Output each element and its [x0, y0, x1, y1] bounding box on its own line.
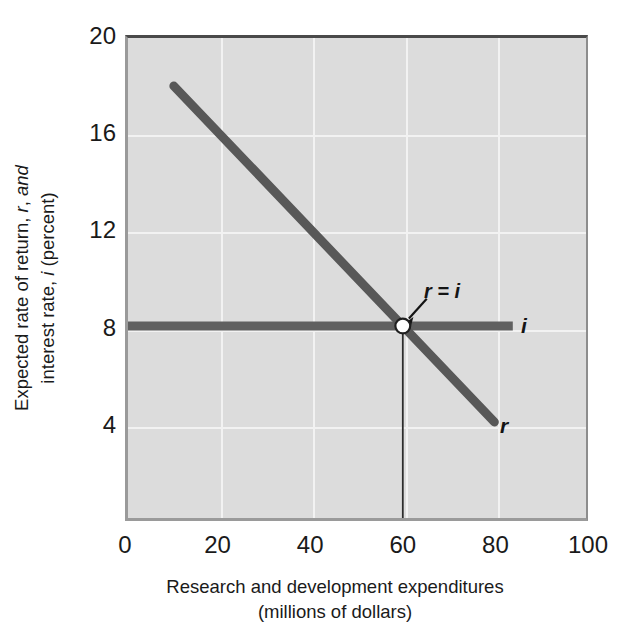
x-axis-ticks: 0 20 40 60 80 100	[125, 533, 588, 563]
x-tick-60: 60	[373, 533, 433, 557]
x-tick-40: 40	[280, 533, 340, 557]
y-axis-title-line1: Expected rate of return, r, and	[9, 38, 35, 538]
y-tick-4: 4	[72, 413, 116, 437]
y-axis-title-seg-percent: (percent)	[37, 192, 58, 271]
y-tick-8: 8	[72, 316, 116, 340]
chart-figure: r = i i r 20 16 12 8 4 0 20 40 60 80 100…	[0, 0, 630, 631]
y-axis-title-seg-r: r	[11, 206, 32, 212]
series-label-r: r	[500, 415, 508, 436]
y-axis-title-line2: interest rate, i (percent)	[35, 38, 61, 538]
series-label-i: i	[521, 315, 527, 336]
x-tick-80: 80	[465, 533, 525, 557]
series-line-r	[174, 86, 495, 422]
y-axis-title-seg-comma: ,	[11, 196, 32, 206]
y-tick-12: 12	[72, 218, 116, 242]
plot-inner: r = i	[128, 38, 586, 518]
x-tick-0: 0	[95, 533, 155, 557]
y-axis-title-seg-b: interest rate,	[37, 276, 58, 384]
equilibrium-marker	[395, 319, 410, 334]
x-axis-title-line1: Research and development expenditures	[166, 576, 503, 597]
y-axis-title-seg-i: i	[37, 272, 58, 276]
x-axis-title: Research and development expenditures (m…	[100, 574, 570, 624]
x-tick-100: 100	[558, 533, 618, 557]
equilibrium-annotation-label: r = i	[424, 281, 460, 301]
y-tick-20: 20	[72, 24, 116, 48]
y-axis-title-seg-and: and	[11, 165, 32, 196]
y-axis-ticks: 20 16 12 8 4	[68, 35, 116, 521]
y-tick-16: 16	[72, 121, 116, 145]
x-tick-20: 20	[188, 533, 248, 557]
y-axis-title-seg-a: Expected rate of return,	[11, 212, 32, 410]
x-axis-title-line2: (millions of dollars)	[100, 599, 570, 624]
y-axis-title: Expected rate of return, r, and interest…	[9, 38, 61, 538]
series-layer	[128, 38, 586, 518]
plot-area: r = i	[125, 35, 588, 521]
